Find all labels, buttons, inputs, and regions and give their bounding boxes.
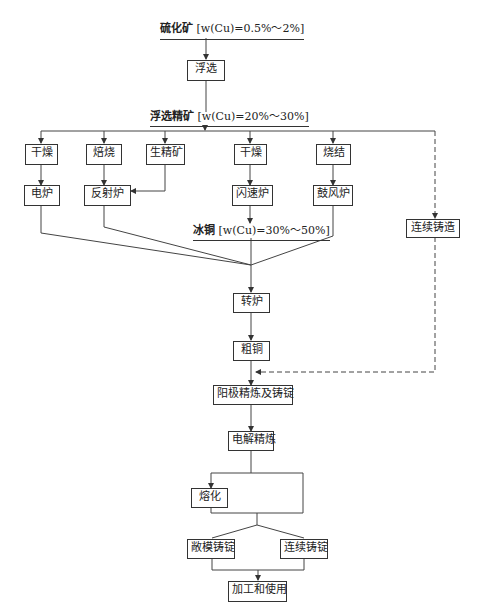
drying-box-1: 干燥 — [25, 144, 58, 165]
anode-refining-box: 阳极精炼及铸锭 — [213, 385, 293, 405]
converter-box: 转炉 — [233, 293, 270, 313]
flash-furnace-box: 闪速炉 — [232, 185, 273, 206]
flotation-box: 浮选 — [187, 60, 225, 81]
melting-box: 熔化 — [191, 488, 228, 508]
blast-furnace-box: 鼓风炉 — [313, 185, 353, 206]
open-mold-casting-box: 敞模铸锭 — [187, 539, 235, 559]
drying-box-2: 干燥 — [234, 144, 267, 165]
flowchart: 硫化矿 [w(Cu)=0.5%～2%] 浮选 浮选精矿 [w(Cu)=20%～3… — [0, 0, 486, 613]
electrolytic-refining-box: 电解精炼 — [228, 431, 274, 451]
green-concentrate-box: 生精矿 — [146, 144, 185, 165]
sintering-box: 烧结 — [316, 144, 351, 165]
roasting-box: 焙烧 — [86, 144, 122, 165]
electric-furnace-box: 电炉 — [24, 185, 60, 206]
continuous-ingot-box: 连续铸锭 — [280, 539, 328, 559]
reverberatory-furnace-box: 反射炉 — [84, 185, 131, 206]
concentrate-label: 浮选精矿 [w(Cu)=20%～30%] — [150, 110, 309, 127]
source-ore-label: 硫化矿 [w(Cu)=0.5%～2%] — [160, 22, 304, 40]
processing-use-box: 加工和使用 — [228, 581, 287, 602]
blister-copper-box: 粗铜 — [233, 341, 270, 361]
matte-label: 冰铜 [w(Cu)=30%～50%] — [193, 224, 330, 241]
continuous-casting-box: 连续铸造 — [406, 219, 460, 238]
